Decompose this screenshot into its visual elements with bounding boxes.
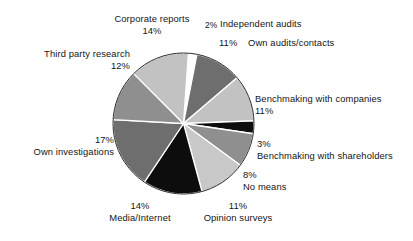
slice-label-name: Own audits/contacts: [248, 37, 334, 48]
slice-label-percent: 17%: [4, 134, 114, 146]
slice-label-percent: 11%: [188, 200, 288, 212]
pie-chart-figure: Corporate reports 14% 2% Independent aud…: [0, 0, 413, 241]
slice-label-percent: 12%: [20, 60, 130, 72]
slice-label-media-internet: 14% Media/Internet: [92, 200, 188, 223]
slice-label-independent-audits: 2% Independent audits: [205, 18, 302, 32]
slice-label-percent: 11%: [219, 37, 237, 48]
slice-label-name: Own investigations: [4, 146, 114, 158]
pie-slice-group: [113, 53, 254, 194]
slice-label-name: No means: [243, 181, 287, 193]
slice-label-own-audits-contacts: 11% Own audits/contacts: [219, 37, 334, 49]
slice-label-name: Independent audits: [220, 18, 302, 29]
slice-label-benchmaking-shareholders: 3% Benchmaking with shareholders: [257, 138, 393, 161]
slice-label-benchmaking-companies: Benchmaking with companies 11%: [255, 93, 382, 116]
slice-label-name: Opinion surveys: [188, 212, 288, 224]
slice-label-name: Benchmaking with shareholders: [257, 150, 393, 162]
slice-label-opinion-surveys: 11% Opinion surveys: [188, 200, 288, 223]
slice-label-corporate-reports: Corporate reports 14%: [100, 13, 204, 36]
slice-label-name: Media/Internet: [92, 212, 188, 224]
slice-label-percent: 14%: [100, 25, 204, 37]
slice-label-percent: 14%: [92, 200, 188, 212]
slice-label-third-party-research: Third party research 12%: [20, 48, 130, 71]
slice-label-name: Corporate reports: [100, 13, 204, 25]
slice-label-name: Benchmaking with companies: [255, 93, 382, 105]
slice-label-no-means: 8% No means: [243, 169, 287, 192]
slice-label-percent: 8%: [243, 169, 287, 181]
slice-label-percent: 11%: [255, 105, 382, 117]
slice-label-own-investigations: 17% Own investigations: [4, 134, 114, 157]
slice-label-percent: 2%: [205, 20, 217, 30]
slice-label-percent: 3%: [257, 138, 393, 150]
slice-label-name: Third party research: [20, 48, 130, 60]
